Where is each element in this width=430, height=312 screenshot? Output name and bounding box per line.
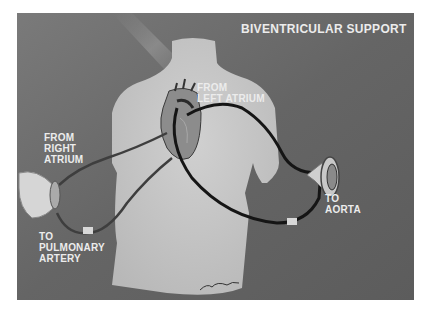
connector-aorta [287,218,297,225]
label-from-right-atrium: FROM RIGHT ATRIUM [44,132,83,165]
medical-illustration: BIVENTRICULAR SUPPORT FROM LEFT ATRIUM F… [17,13,414,300]
figure-title: BIVENTRICULAR SUPPORT [241,22,407,36]
label-to-pulmonary-artery: TO PULMONARY ARTERY [39,231,105,264]
label-from-left-atrium: FROM LEFT ATRIUM [197,82,265,104]
label-to-aorta: TO AORTA [325,193,361,215]
